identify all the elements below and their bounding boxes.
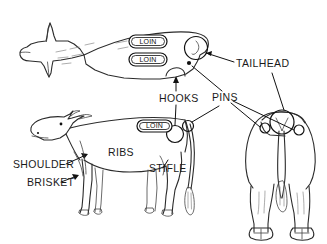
label-hooks: HOOKS <box>159 93 199 104</box>
rear-view-rump-outline <box>246 122 316 189</box>
loin-pill-top-2: LOIN <box>129 53 167 66</box>
side-view-tail-switch-hair-2 <box>191 193 192 209</box>
side-view-chest-front <box>66 134 80 160</box>
top-view-head-outline <box>20 23 84 77</box>
rear-view-leg-right-outer <box>308 186 310 232</box>
rear-view-leg-hair-2 <box>264 191 265 213</box>
side-view-rear-leg-far-back <box>146 170 148 211</box>
cattle-anatomy-diagram: LOIN LOIN <box>0 0 327 244</box>
rear-view-tail-switch <box>276 181 287 212</box>
rear-view-leg-right-inner <box>289 184 295 232</box>
rear-view-leg-hair-3 <box>297 193 298 214</box>
loin-pill-side-1-text: LOIN <box>146 122 163 129</box>
rear-view-leg-hair-1 <box>258 192 259 214</box>
rear-view-hoof-left-cleft <box>254 229 268 239</box>
leader-pins-to-rear-right-pin <box>233 101 294 130</box>
rear-view-pin-circle-right <box>294 125 304 135</box>
rear-view-group <box>246 110 316 240</box>
label-pins: PINS <box>212 92 238 103</box>
diagram-canvas: LOIN LOIN <box>0 0 327 244</box>
top-view-shading-1 <box>56 50 66 52</box>
side-view-front-leg-near <box>80 159 84 213</box>
top-view-shading-2 <box>70 47 79 49</box>
loin-pill-top-1: LOIN <box>129 35 167 48</box>
top-view-shading-8 <box>62 63 71 64</box>
label-shoulder: SHOULDER <box>13 159 74 170</box>
top-view-shading-7 <box>118 47 128 49</box>
side-view-tail-switch <box>185 188 195 215</box>
side-view-eye <box>60 123 63 126</box>
side-view-brisket-crease <box>74 152 83 176</box>
side-view-rear-leg-far <box>155 170 157 211</box>
top-view-ear-left <box>47 23 51 42</box>
side-view-head-outline <box>31 111 84 140</box>
rear-view-leg-left-inner <box>268 184 274 232</box>
label-tailhead: TAILHEAD <box>236 58 289 69</box>
leader-tailhead-to-rear-view <box>272 73 284 110</box>
top-view-tail-stub <box>192 41 199 54</box>
loin-pill-side-1: LOIN <box>137 120 172 132</box>
side-view-front-leg-near-back <box>88 164 92 214</box>
label-brisket: BRISKET <box>27 177 74 188</box>
label-ribs: RIBS <box>108 147 134 158</box>
rear-view-tail-left-edge <box>278 131 281 198</box>
top-view-group <box>20 23 209 79</box>
rear-view-leg-hair-4 <box>303 192 304 214</box>
side-view-front-leg-far-back <box>100 170 103 212</box>
side-view-mouth <box>32 136 48 138</box>
side-view-nostril <box>37 132 39 134</box>
side-view-front-leg-far <box>95 168 97 212</box>
loin-pill-top-1-text: LOIN <box>139 38 156 45</box>
leader-hooks-to-side-view <box>175 105 176 125</box>
leader-pins-to-side-view <box>192 106 219 122</box>
rear-view-leg-left-outer <box>250 186 254 232</box>
side-view-tail-inner <box>190 124 194 189</box>
top-view-shading-3 <box>85 43 94 45</box>
loin-pill-top-2-text: LOIN <box>139 56 156 63</box>
top-view-tailhead-circle <box>185 37 208 60</box>
side-view-ear <box>79 115 92 120</box>
label-stifle: STIFLE <box>149 163 187 174</box>
top-view-pins-point <box>187 61 191 65</box>
leader-pins-to-top-view <box>192 66 222 91</box>
rear-view-hoof-right-cleft <box>295 229 309 239</box>
top-view-shading-4 <box>58 57 68 58</box>
